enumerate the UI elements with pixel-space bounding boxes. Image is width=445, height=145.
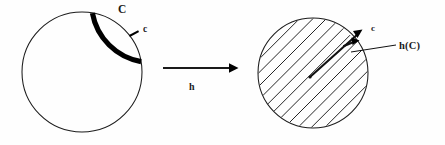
radius-arrow-shaft xyxy=(310,34,359,78)
left-circle-outline xyxy=(22,12,142,132)
figure-canvas: C c h xyxy=(0,0,445,145)
label-image-hC: h(C) xyxy=(399,40,421,52)
label-image-point-c: c xyxy=(371,23,375,33)
mapping-arrow-group: h xyxy=(163,63,239,92)
label-curve-C: C xyxy=(118,3,126,15)
label-map-h: h xyxy=(189,81,195,92)
hC-leader-line xyxy=(351,45,396,52)
point-tick-c xyxy=(130,31,139,36)
left-figure-group: C c xyxy=(22,3,147,132)
figure-container: C c h xyxy=(0,0,445,145)
mapping-arrow-head xyxy=(229,63,239,73)
label-point-c: c xyxy=(143,24,147,34)
thick-arc-C xyxy=(92,13,141,61)
disk-center-dot xyxy=(308,75,311,78)
hatch-fill xyxy=(173,0,424,145)
right-figure-group: c h(C) xyxy=(173,0,424,145)
